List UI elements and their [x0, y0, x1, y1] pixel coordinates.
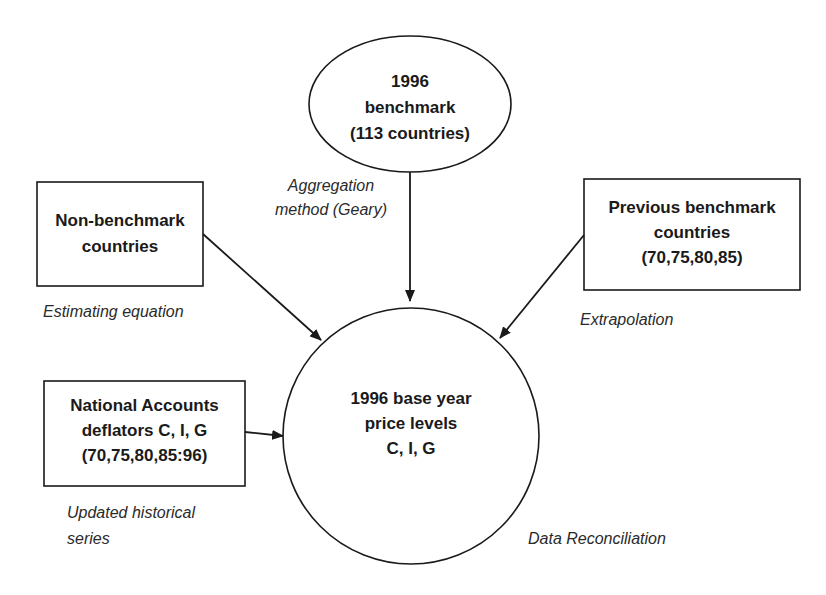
- base-year-text: 1996 base year price levels C, I, G: [311, 388, 511, 460]
- national-accounts-line-1: National Accounts: [44, 395, 245, 417]
- benchmark-1996-line-3: (113 countries): [310, 123, 510, 145]
- base-year-line-1: 1996 base year: [311, 388, 511, 410]
- aggregation-line-2: method (Geary): [258, 198, 404, 222]
- updated-line-2: series: [67, 526, 195, 552]
- national-accounts-line-2: deflators C, I, G: [44, 420, 245, 442]
- arrow-nonbenchmark-to-base: [203, 234, 321, 340]
- previous-benchmark-line-1: Previous benchmark: [584, 197, 800, 219]
- extrapolation-label: Extrapolation: [580, 308, 673, 332]
- aggregation-line-2-prefix: method (: [275, 201, 338, 218]
- non-benchmark-line-1: Non-benchmark: [37, 210, 203, 232]
- arrow-previous-to-base: [500, 235, 584, 338]
- benchmark-1996-line-1: 1996: [310, 71, 510, 93]
- previous-benchmark-line-2: countries: [584, 222, 800, 244]
- aggregation-method-label: Aggregation method (Geary): [258, 174, 404, 222]
- previous-benchmark-text: Previous benchmark countries (70,75,80,8…: [584, 197, 800, 269]
- national-accounts-text: National Accounts deflators C, I, G (70,…: [44, 395, 245, 467]
- benchmark-1996-text: 1996 benchmark (113 countries): [310, 71, 510, 145]
- updated-historical-series-label: Updated historical series: [67, 500, 195, 552]
- aggregation-line-2-suffix: ): [382, 201, 387, 218]
- estimating-equation-label: Estimating equation: [43, 300, 184, 324]
- arrow-national-accounts-to-base: [245, 432, 283, 436]
- non-benchmark-text: Non-benchmark countries: [37, 210, 203, 258]
- non-benchmark-line-2: countries: [37, 236, 203, 258]
- data-reconciliation-text: Data Reconciliation: [528, 527, 666, 551]
- national-accounts-line-3: (70,75,80,85:96): [44, 445, 245, 467]
- aggregation-line-2-geary: Geary: [338, 201, 382, 218]
- extrapolation-text: Extrapolation: [580, 308, 673, 332]
- previous-benchmark-line-3: (70,75,80,85): [584, 247, 800, 269]
- base-year-line-3: C, I, G: [311, 438, 511, 460]
- estimating-equation-text: Estimating equation: [43, 300, 184, 324]
- data-reconciliation-label: Data Reconciliation: [528, 527, 666, 551]
- updated-line-1: Updated historical: [67, 500, 195, 526]
- aggregation-line-1: Aggregation: [258, 174, 404, 198]
- benchmark-1996-line-2: benchmark: [310, 97, 510, 119]
- base-year-line-2: price levels: [311, 413, 511, 435]
